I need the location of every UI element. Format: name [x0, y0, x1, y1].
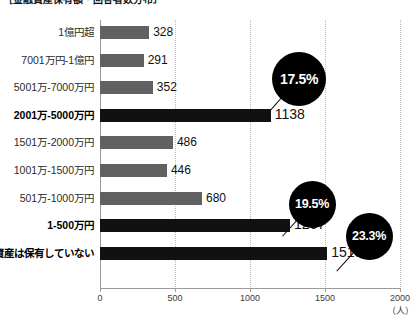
bar [100, 81, 153, 94]
x-tick-label-500: 500 [167, 293, 182, 303]
axis-unit-label: （人） [387, 304, 414, 317]
bar [100, 26, 149, 39]
bar-row: 7001万円-1億円291 [0, 54, 417, 76]
percentage-callout: 17.5% [272, 52, 326, 106]
bar [100, 192, 202, 205]
category-label: 1501万-2000万円 [14, 136, 94, 149]
bar-row: 1501万-2000万円486 [0, 136, 417, 158]
bar [100, 164, 167, 177]
category-label: 7001万円-1億円 [21, 54, 94, 67]
bar-row: 1001万-1500万円446 [0, 164, 417, 186]
category-label: 1億円超 [58, 26, 94, 39]
x-tick-label-2000: 2000 [390, 293, 410, 303]
bar [100, 54, 144, 67]
category-label: 501万-1000万円 [20, 192, 94, 205]
chart-title: ［金融資産保有額・回答者数分布］ [3, 0, 163, 6]
bar-chart: ［金融資産保有額・回答者数分布］ 1億円超3287001万円-1億円291500… [0, 0, 417, 322]
bar [100, 109, 271, 122]
bar [100, 247, 327, 260]
percentage-callout: 19.5% [289, 181, 336, 228]
category-label: 1-500万円 [47, 219, 94, 232]
category-label: 資産は保有していない [0, 247, 94, 260]
percentage-callout: 23.3% [346, 213, 393, 260]
bar-row: 5001万-7000万円352 [0, 81, 417, 103]
category-label: 1001万-1500万円 [14, 164, 94, 177]
bar-row: 1億円超328 [0, 26, 417, 48]
bar-value-label: 352 [157, 80, 177, 95]
bar-value-label: 680 [206, 191, 226, 206]
x-tick-1000 [250, 288, 251, 292]
x-tick-500 [175, 288, 176, 292]
x-tick-label-1000: 1000 [240, 293, 260, 303]
bar-value-label: 291 [148, 53, 168, 68]
category-label: 5001万-7000万円 [14, 81, 94, 94]
bar-value-label: 446 [171, 163, 191, 178]
bar [100, 136, 173, 149]
bar [100, 219, 290, 232]
x-tick-0 [100, 288, 101, 292]
x-tick-2000 [400, 288, 401, 292]
bar-value-label: 328 [153, 25, 173, 40]
bar-value-label: 486 [177, 135, 197, 150]
x-tick-label-1500: 1500 [315, 293, 335, 303]
x-tick-1500 [325, 288, 326, 292]
bar-row: 2001万-5000万円1138 [0, 109, 417, 131]
x-tick-label-0: 0 [97, 293, 102, 303]
category-label: 2001万-5000万円 [14, 109, 94, 122]
bar-row: 501万-1000万円680 [0, 192, 417, 214]
bar-value-label: 1138 [275, 107, 305, 122]
